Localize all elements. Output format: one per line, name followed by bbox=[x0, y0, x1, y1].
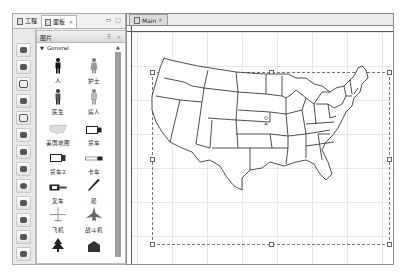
ship-icon bbox=[87, 178, 101, 192]
tab-project[interactable]: 工程 bbox=[14, 15, 40, 27]
palette-item-doctor[interactable]: 医生 bbox=[43, 89, 73, 117]
close-icon[interactable]: ✕ bbox=[158, 17, 162, 23]
person-icon bbox=[54, 58, 62, 74]
palette-item-tree[interactable] bbox=[43, 238, 73, 266]
us-map-graphic bbox=[146, 48, 390, 208]
palette-header: 图片 ⠿ ⌗ bbox=[37, 31, 125, 43]
van-icon bbox=[86, 126, 102, 134]
palette-item-truck[interactable]: 卡车 bbox=[79, 149, 109, 177]
forklift-icon bbox=[49, 184, 67, 191]
tab-main-label: Main bbox=[142, 17, 156, 24]
window-controls[interactable]: ▭ ▢ bbox=[106, 16, 122, 23]
project-icon bbox=[17, 18, 23, 25]
palette-scrollbar[interactable]: ▲ bbox=[114, 43, 122, 261]
leaf-icon[interactable] bbox=[16, 196, 31, 210]
expand-arrow-icon: ▼ bbox=[40, 45, 44, 51]
item-label: 飞机 bbox=[43, 226, 73, 234]
palette-item-airplane[interactable]: 飞机 bbox=[43, 207, 73, 235]
item-label: 人 bbox=[43, 77, 73, 85]
shape-icon[interactable] bbox=[16, 77, 31, 91]
palette-header-controls[interactable]: ⠿ ⌗ bbox=[107, 33, 122, 41]
us-map-icon bbox=[49, 124, 67, 135]
palette-item-van[interactable]: 货车 bbox=[79, 120, 109, 148]
item-label: 船 bbox=[79, 197, 109, 205]
palette-item-us-map[interactable]: 美国地图 bbox=[43, 120, 73, 148]
item-label: 货车 bbox=[79, 139, 109, 147]
tab-main[interactable]: Main ✕ bbox=[129, 14, 168, 25]
tab-project-label: 工程 bbox=[25, 15, 37, 27]
editor-tab-bar: Main ✕ bbox=[127, 14, 393, 26]
scroll-thumb[interactable] bbox=[115, 52, 121, 257]
diagram-icon bbox=[134, 17, 140, 24]
palette-title: 图片 bbox=[40, 33, 52, 42]
arrow2-icon[interactable] bbox=[16, 145, 31, 159]
item-label: 美国地图 bbox=[43, 139, 73, 147]
palette-item-building[interactable] bbox=[79, 238, 109, 266]
resize-handle-sw[interactable] bbox=[150, 242, 155, 247]
mountain-icon[interactable] bbox=[16, 213, 31, 227]
palette-item-ship[interactable]: 船 bbox=[79, 178, 109, 206]
palette-item-fighter-jet[interactable]: 战斗机 bbox=[79, 207, 109, 235]
tab-palette[interactable]: 面板 ✕ bbox=[41, 15, 77, 28]
book-icon[interactable] bbox=[16, 60, 31, 74]
airplane-icon bbox=[50, 207, 66, 223]
palette-item-person[interactable]: 人 bbox=[43, 58, 73, 86]
palette-item-van2[interactable]: 货车2 bbox=[43, 149, 73, 177]
close-icon[interactable]: ✕ bbox=[69, 16, 73, 28]
drawer-label: General bbox=[47, 45, 69, 51]
nurse-icon bbox=[90, 58, 98, 74]
tree-icon[interactable] bbox=[16, 230, 31, 244]
building-icon bbox=[87, 240, 101, 252]
van2-icon bbox=[50, 154, 66, 162]
item-label: 叉车 bbox=[43, 197, 73, 205]
item-label: 护士 bbox=[79, 77, 109, 85]
item-label: 医生 bbox=[43, 108, 73, 116]
doctor-icon bbox=[54, 89, 62, 105]
item-label: 卡车 bbox=[79, 168, 109, 176]
drawer-general[interactable]: ▼ General bbox=[39, 44, 111, 54]
chart-icon[interactable] bbox=[16, 94, 31, 108]
palette-item-forklift[interactable]: 叉车 bbox=[43, 178, 73, 206]
view-tab-bar: 工程 面板 ✕ ▭ ▢ bbox=[13, 14, 125, 29]
palette-icon bbox=[45, 19, 51, 26]
fighter-jet-icon bbox=[86, 207, 102, 223]
building-icon[interactable] bbox=[16, 247, 31, 261]
tab-palette-label: 面板 bbox=[53, 16, 65, 28]
frame-icon[interactable] bbox=[16, 111, 31, 125]
truck-icon bbox=[85, 156, 103, 161]
sphere-icon[interactable] bbox=[16, 179, 31, 193]
icon-strip bbox=[13, 29, 36, 264]
figure-icon[interactable] bbox=[16, 43, 31, 57]
resize-handle-s[interactable] bbox=[269, 242, 274, 247]
palette-panel: 图片 ⠿ ⌗ ▼ General ▲ 人 护士 医生 病人 bbox=[36, 30, 126, 264]
tree-icon bbox=[51, 238, 65, 252]
item-label: 货车2 bbox=[43, 168, 73, 176]
item-label: 战斗机 bbox=[79, 226, 109, 234]
item-label: 病人 bbox=[79, 108, 109, 116]
palette-item-nurse[interactable]: 护士 bbox=[79, 58, 109, 86]
resize-handle-se[interactable] bbox=[387, 242, 392, 247]
arrow-icon[interactable] bbox=[16, 128, 31, 142]
palette-view: 工程 面板 ✕ ▭ ▢ 图片 ⠿ ⌗ ▼ General bbox=[12, 13, 126, 265]
group-icon[interactable] bbox=[16, 162, 31, 176]
palette-item-patient[interactable]: 病人 bbox=[79, 89, 109, 117]
scroll-up-icon[interactable]: ▲ bbox=[114, 43, 122, 51]
patient-icon bbox=[90, 89, 98, 105]
